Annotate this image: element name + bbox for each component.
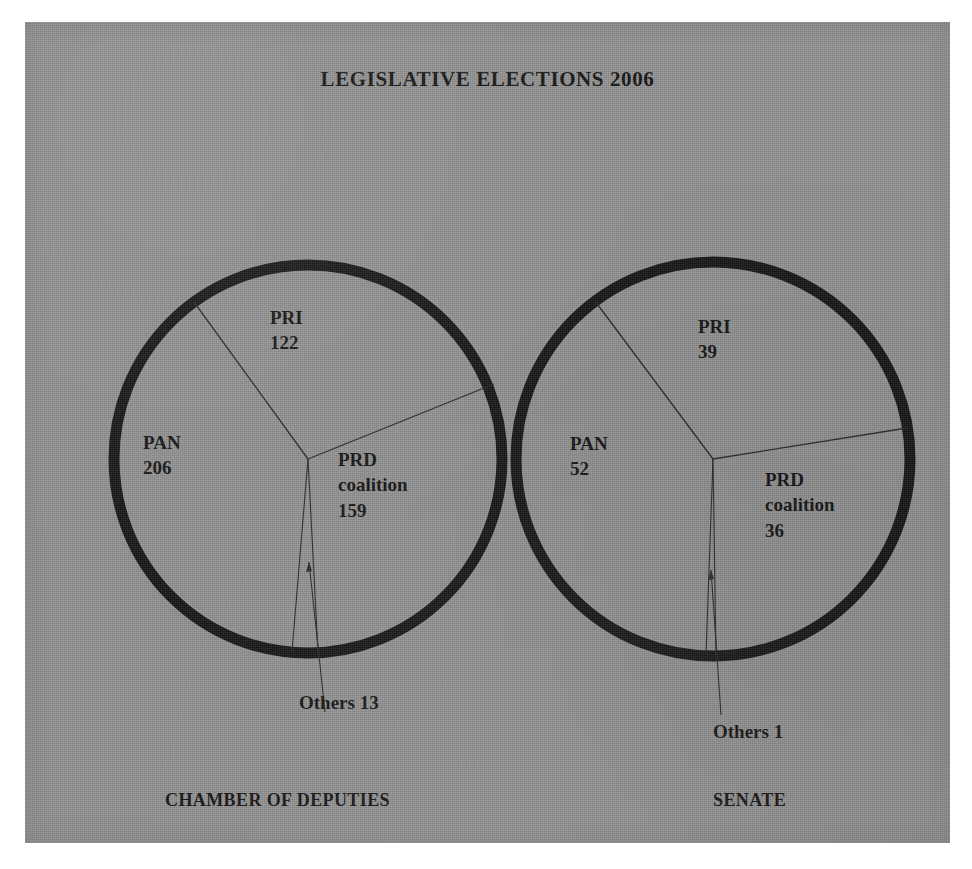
slice-name-pan-deputies: PAN xyxy=(143,430,181,455)
slice-label-others-deputies: Others 13 xyxy=(299,692,379,714)
figure-panel: LEGISLATIVE ELECTIONS 2006 PAN 206 PRI 1… xyxy=(25,22,950,843)
slice-name-prd-senate: PRD xyxy=(765,467,835,492)
page-title: LEGISLATIVE ELECTIONS 2006 xyxy=(25,67,950,92)
slice-label-pri-senate: PRI 39 xyxy=(698,314,731,365)
slice-value-prd-deputies: 159 xyxy=(338,498,408,523)
pie-chart-chamber-of-deputies xyxy=(60,212,560,732)
chart-caption-senate: SENATE xyxy=(713,790,786,811)
slice-name-prd-deputies: PRD xyxy=(338,447,408,472)
slice-name-pri-senate: PRI xyxy=(698,314,731,339)
slice-value-pan-deputies: 206 xyxy=(143,455,181,480)
slice-value-pri-senate: 39 xyxy=(698,339,731,364)
slice-label-pri-deputies: PRI 122 xyxy=(270,305,303,356)
slice-label-others-senate: Others 1 xyxy=(713,721,783,743)
slice-name-pan-senate: PAN xyxy=(570,431,608,456)
chart-caption-chamber-of-deputies: CHAMBER OF DEPUTIES xyxy=(165,790,390,811)
slice-label-prd-deputies: PRD coalition 159 xyxy=(338,447,408,523)
slice-value-pan-senate: 52 xyxy=(570,456,608,481)
slice-label-prd-senate: PRD coalition 36 xyxy=(765,467,835,543)
slice-sub-prd-senate: coalition xyxy=(765,492,835,517)
slice-value-pri-deputies: 122 xyxy=(270,330,303,355)
slice-sub-prd-deputies: coalition xyxy=(338,472,408,497)
pie-chart-senate xyxy=(490,218,950,748)
slice-name-pri-deputies: PRI xyxy=(270,305,303,330)
slice-label-pan-deputies: PAN 206 xyxy=(143,430,181,481)
slice-label-pan-senate: PAN 52 xyxy=(570,431,608,482)
slice-value-prd-senate: 36 xyxy=(765,518,835,543)
